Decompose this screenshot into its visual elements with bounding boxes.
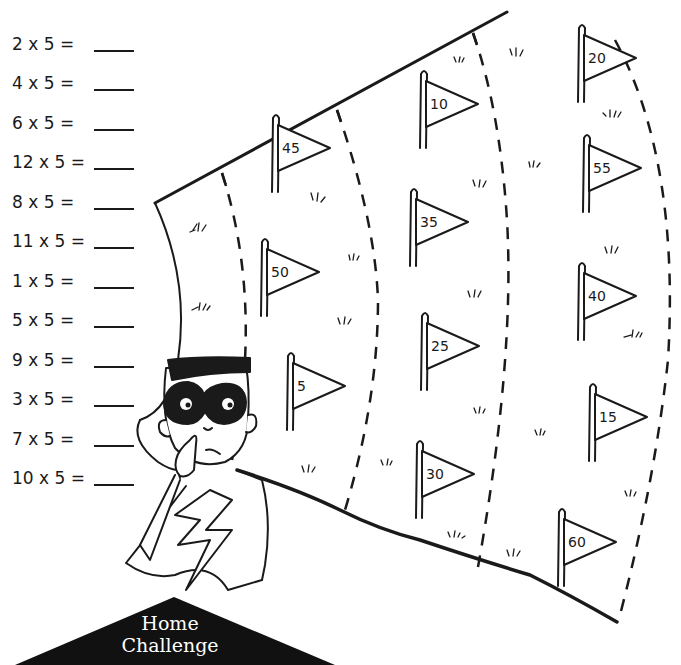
flag-50: 50: [261, 239, 319, 316]
banner-title: Home Challenge: [0, 612, 340, 656]
flag-number: 50: [271, 264, 289, 280]
problem-row: 2 x 5 =: [12, 34, 74, 58]
answer-blank[interactable]: [94, 208, 134, 210]
banner-line-2: Challenge: [0, 634, 340, 656]
flag-55: 55: [583, 135, 641, 212]
flag-number: 15: [599, 409, 617, 425]
answer-blank[interactable]: [94, 287, 134, 289]
problem-row: 7 x 5 =: [12, 429, 74, 453]
lane-dividers: [222, 33, 670, 615]
problem-row: 9 x 5 =: [12, 350, 74, 374]
problem-text: 8 x 5 =: [12, 192, 74, 212]
flag-number: 20: [588, 50, 606, 66]
flag-30: 30: [416, 441, 474, 518]
answer-blank[interactable]: [94, 484, 134, 486]
answer-blank[interactable]: [94, 326, 134, 328]
flag-number: 25: [431, 338, 449, 354]
problem-row: 1 x 5 =: [12, 271, 74, 295]
flag-25: 25: [421, 313, 479, 390]
answer-blank[interactable]: [94, 129, 134, 131]
problem-text: 3 x 5 =: [12, 389, 74, 409]
flag-10: 10: [420, 71, 478, 148]
flag-number: 5: [297, 378, 306, 394]
problem-text: 7 x 5 =: [12, 429, 74, 449]
answer-blank[interactable]: [94, 89, 134, 91]
problem-row: 11 x 5 =: [12, 231, 85, 255]
answer-blank[interactable]: [94, 405, 134, 407]
flag-number: 40: [588, 288, 606, 304]
flag-number: 10: [430, 96, 448, 112]
answer-blank[interactable]: [94, 247, 134, 249]
problem-text: 10 x 5 =: [12, 468, 85, 488]
problem-row: 4 x 5 =: [12, 73, 74, 97]
flag-5: 5: [287, 353, 345, 430]
problem-text: 5 x 5 =: [12, 310, 74, 330]
superhero-character: [126, 357, 268, 590]
problem-row: 10 x 5 =: [12, 468, 85, 492]
flag-40: 40: [578, 263, 636, 340]
flag-35: 35: [410, 189, 468, 266]
flag-15: 15: [589, 384, 647, 461]
problem-text: 1 x 5 =: [12, 271, 74, 291]
problem-row: 5 x 5 =: [12, 310, 74, 334]
problem-row: 8 x 5 =: [12, 192, 74, 216]
problem-text: 12 x 5 =: [12, 152, 85, 172]
field-illustration: 45102055355040255153060: [0, 0, 681, 665]
flag-number: 55: [593, 160, 611, 176]
problem-row: 12 x 5 =: [12, 152, 85, 176]
problem-text: 4 x 5 =: [12, 73, 74, 93]
flag-60: 60: [558, 509, 616, 586]
flag-number: 45: [282, 140, 300, 156]
problem-row: 6 x 5 =: [12, 113, 74, 137]
flag-number: 30: [426, 466, 444, 482]
answer-blank[interactable]: [94, 366, 134, 368]
problem-text: 6 x 5 =: [12, 113, 74, 133]
problem-text: 2 x 5 =: [12, 34, 74, 54]
flag-number: 60: [568, 534, 586, 550]
answer-blank[interactable]: [94, 168, 134, 170]
banner-line-1: Home: [0, 612, 340, 634]
answer-blank[interactable]: [94, 445, 134, 447]
flag-45: 45: [272, 115, 330, 192]
problem-row: 3 x 5 =: [12, 389, 74, 413]
flag-number: 35: [420, 214, 438, 230]
problem-text: 9 x 5 =: [12, 350, 74, 370]
problem-text: 11 x 5 =: [12, 231, 85, 251]
answer-blank[interactable]: [94, 50, 134, 52]
